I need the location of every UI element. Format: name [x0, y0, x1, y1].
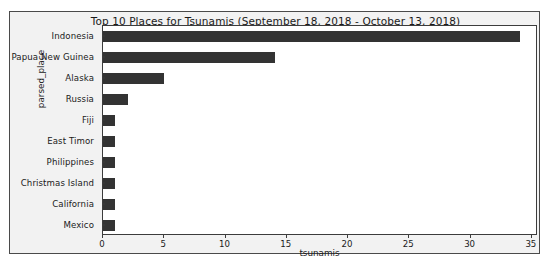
bar-rect	[103, 52, 275, 63]
x-ticklabel: 15	[280, 239, 291, 249]
y-ticklabel: Indonesia	[52, 31, 94, 41]
bar-rect	[103, 94, 128, 105]
bar-christmas-island	[103, 178, 536, 189]
y-tickmark	[102, 77, 105, 78]
y-tickmark	[102, 224, 105, 225]
bar-rect	[103, 220, 115, 231]
x-ticklabel: 10	[219, 239, 230, 249]
bar-california	[103, 199, 536, 210]
y-ticklabel: Alaska	[65, 73, 94, 83]
bars-layer	[103, 26, 536, 234]
y-ticklabel: Christmas Island	[21, 178, 94, 188]
bar-russia	[103, 94, 536, 105]
x-axis-label: tsunamis	[102, 248, 537, 258]
x-ticklabel: 35	[525, 239, 536, 249]
bar-rect	[103, 157, 115, 168]
x-tickmark	[347, 235, 348, 238]
y-ticklabel: East Timor	[47, 136, 94, 146]
x-tickmark	[408, 235, 409, 238]
x-tickmark	[286, 235, 287, 238]
bar-indonesia	[103, 31, 536, 42]
bar-rect	[103, 178, 115, 189]
x-ticklabel: 25	[403, 239, 414, 249]
bar-rect	[103, 199, 115, 210]
bar-rect	[103, 31, 520, 42]
bar-papua-new-guinea	[103, 52, 536, 63]
y-tickmark	[102, 203, 105, 204]
x-tickmark	[470, 235, 471, 238]
bar-mexico	[103, 220, 536, 231]
figure: Top 10 Places for Tsunamis (September 18…	[9, 11, 540, 254]
y-axis-ticklabels: IndonesiaPapua New GuineaAlaskaRussiaFij…	[10, 25, 99, 235]
y-ticklabel: Papua New Guinea	[11, 52, 94, 62]
x-tickmark	[225, 235, 226, 238]
bar-east-timor	[103, 136, 536, 147]
x-ticklabel: 20	[342, 239, 353, 249]
y-tickmark	[102, 161, 105, 162]
y-tickmark	[102, 119, 105, 120]
bar-rect	[103, 73, 164, 84]
y-ticklabel: Mexico	[63, 220, 94, 230]
x-ticklabel: 5	[161, 239, 166, 249]
y-tickmark	[102, 35, 105, 36]
y-ticklabel: California	[52, 199, 94, 209]
y-tickmark	[102, 98, 105, 99]
y-ticklabel: Russia	[66, 94, 94, 104]
y-tickmark	[102, 182, 105, 183]
bar-rect	[103, 115, 115, 126]
x-tickmark	[163, 235, 164, 238]
y-ticklabel: Fiji	[82, 115, 94, 125]
bar-rect	[103, 136, 115, 147]
plot-area	[102, 25, 537, 235]
x-ticklabel: 30	[464, 239, 475, 249]
y-tickmark	[102, 140, 105, 141]
bar-philippines	[103, 157, 536, 168]
x-tickmark	[531, 235, 532, 238]
y-ticklabel: Philippines	[47, 157, 94, 167]
bar-fiji	[103, 115, 536, 126]
x-tickmark	[102, 235, 103, 238]
bar-alaska	[103, 73, 536, 84]
y-tickmark	[102, 56, 105, 57]
x-ticklabel: 0	[99, 239, 104, 249]
